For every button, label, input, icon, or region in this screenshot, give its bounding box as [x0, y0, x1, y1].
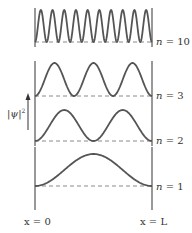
- probability-density-curve: [35, 154, 152, 186]
- panel-n2: n = 2: [35, 101, 184, 146]
- y-axis-label: |ψ|2: [7, 107, 26, 120]
- panel-n10: n = 10: [35, 8, 190, 47]
- y-axis: |ψ|2: [7, 93, 31, 130]
- x-right-label: x = L: [140, 216, 167, 227]
- particle-in-box-diagram: n = 10 n = 3 n = 2 n = 1 |ψ|2 x = 0 x = …: [0, 0, 192, 233]
- probability-density-curve: [35, 110, 152, 141]
- panel-n3: n = 3: [35, 61, 184, 101]
- state-label: n = 2: [156, 135, 184, 146]
- probability-density-curve: [35, 63, 152, 96]
- state-label: n = 1: [156, 181, 184, 192]
- probability-density-curve: [35, 10, 152, 42]
- panel-n1: n = 1: [35, 147, 184, 210]
- x-left-label: x = 0: [24, 216, 51, 227]
- arrow-up-icon: [26, 93, 31, 100]
- state-label: n = 3: [156, 90, 184, 101]
- state-label: n = 10: [156, 36, 190, 47]
